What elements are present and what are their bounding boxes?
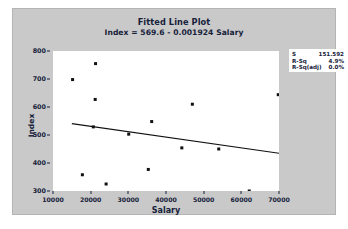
x-axis-tick-labels: 10000200003000040000500006000070000 [53, 191, 279, 207]
x-axis-title: Salary [53, 206, 279, 215]
y-axis-tick-mark [47, 51, 50, 52]
data-point [94, 62, 97, 65]
x-axis-tick-mark [90, 191, 91, 194]
statistic-value: 151.592 [319, 51, 344, 58]
fitted-line [72, 124, 279, 154]
y-axis-tick-mark [47, 163, 50, 164]
statistic-row: S151.592 [292, 51, 344, 58]
y-axis-tick-label: 400 [33, 159, 46, 167]
x-axis-tick-label: 40000 [155, 196, 177, 203]
data-point [105, 183, 108, 186]
y-axis-tick-mark [47, 191, 50, 192]
x-axis-tick-label: 70000 [268, 196, 290, 203]
x-axis-tick-label: 10000 [42, 196, 64, 203]
statistic-row: R-Sq4.9% [292, 58, 344, 65]
data-point-group [71, 62, 279, 191]
statistic-value: 0.0% [328, 64, 344, 71]
data-point [94, 98, 97, 101]
data-point [191, 103, 194, 106]
plot-area [53, 51, 279, 191]
x-axis-tick-mark [203, 191, 204, 194]
x-axis-tick-label: 60000 [231, 196, 253, 203]
y-axis-tick-label: 700 [33, 75, 46, 83]
x-axis-tick-mark [128, 191, 129, 194]
x-axis-tick-mark [241, 191, 242, 194]
x-axis-tick-mark [279, 191, 280, 194]
data-point [147, 168, 150, 171]
fitted-line-segment [72, 124, 279, 154]
data-point [180, 146, 183, 149]
statistic-label: R-Sq [292, 58, 307, 65]
y-axis-tick-labels: 800700600500400300 [13, 51, 50, 191]
data-point [81, 173, 84, 176]
y-axis-tick-label: 500 [33, 131, 46, 139]
x-axis-tick-mark [53, 191, 54, 194]
statistic-value: 4.9% [328, 58, 344, 65]
x-axis-tick-label: 20000 [80, 196, 102, 203]
statistic-label: R-Sq(adj) [292, 64, 321, 71]
y-axis-tick-mark [47, 135, 50, 136]
statistic-row: R-Sq(adj)0.0% [292, 64, 344, 71]
x-axis-tick-label: 50000 [193, 196, 215, 203]
data-point [71, 78, 74, 81]
y-axis-tick-mark [47, 79, 50, 80]
x-axis-tick-label: 30000 [118, 196, 140, 203]
y-axis-tick-label: 300 [33, 187, 46, 195]
y-axis-tick-label: 800 [33, 47, 46, 55]
statistics-legend-box: S151.592R-Sq4.9%R-Sq(adj)0.0% [289, 49, 347, 72]
chart-subtitle: Index = 569.6 - 0.001924 Salary [13, 28, 335, 37]
data-point [150, 120, 153, 123]
data-point [92, 125, 95, 128]
figure-panel: Fitted Line Plot Index = 569.6 - 0.00192… [12, 8, 336, 215]
y-axis-tick-mark [47, 107, 50, 108]
scatter-plot-svg [53, 51, 279, 191]
data-point [127, 133, 130, 136]
chart-title: Fitted Line Plot [13, 17, 335, 27]
data-point [217, 148, 220, 151]
x-axis-tick-mark [166, 191, 167, 194]
data-point [277, 93, 279, 96]
statistic-label: S [292, 51, 296, 58]
y-axis-tick-label: 600 [33, 103, 46, 111]
